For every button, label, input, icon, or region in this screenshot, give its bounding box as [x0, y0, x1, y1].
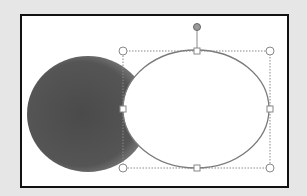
handle-top-right[interactable] — [266, 47, 274, 55]
handle-bottom[interactable] — [194, 165, 200, 171]
handle-top-left[interactable] — [119, 47, 127, 55]
handle-top[interactable] — [194, 48, 200, 54]
white-ellipse[interactable] — [123, 50, 269, 168]
shapes-layer — [0, 0, 307, 196]
handle-right[interactable] — [267, 106, 273, 112]
handle-left[interactable] — [120, 106, 126, 112]
handle-bottom-left[interactable] — [119, 164, 127, 172]
rotation-handle[interactable] — [194, 24, 201, 31]
handle-bottom-right[interactable] — [266, 164, 274, 172]
